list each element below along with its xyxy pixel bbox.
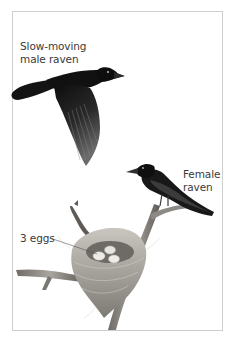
label-male-line1: Slow-moving [20,40,86,53]
flying-male-raven [11,67,125,166]
egg [109,255,120,263]
label-eggs: 3 eggs [20,232,55,245]
label-female-raven: Female raven [183,168,220,194]
egg [105,246,116,254]
label-male-line2: male raven [20,53,86,66]
label-male-raven: Slow-moving male raven [20,40,86,66]
label-female-line2: raven [183,181,220,194]
label-eggs-text: 3 eggs [20,232,55,245]
label-female-line1: Female [183,168,220,181]
